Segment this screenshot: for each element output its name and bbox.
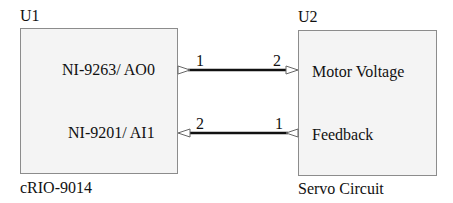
output-port-arrow-icon: [286, 129, 298, 137]
wire2-pin-to: 2: [196, 116, 204, 132]
wire1-pin-from: 1: [196, 53, 204, 69]
output-port-arrow-icon: [178, 66, 190, 74]
wires-layer: [0, 0, 453, 203]
input-port-arrow-icon: [178, 129, 190, 137]
wire1-pin-to: 2: [273, 53, 281, 69]
input-port-arrow-icon: [286, 66, 298, 74]
wire2-pin-from: 1: [275, 116, 283, 132]
